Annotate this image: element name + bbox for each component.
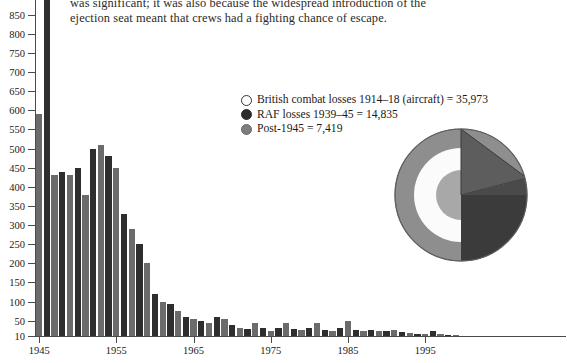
bar-1959 <box>144 263 150 336</box>
bar-1956 <box>121 214 127 336</box>
bar-1969 <box>221 319 227 336</box>
x-axis-tick-label: 1945 <box>29 345 50 356</box>
x-axis-tick <box>271 336 272 343</box>
y-axis-tick-label: 900 <box>0 0 25 1</box>
y-axis-tick-label: 250 <box>0 239 25 250</box>
x-axis-line <box>35 336 566 337</box>
bar-1977 <box>283 323 289 336</box>
y-axis-tick <box>28 336 35 337</box>
bar-1955 <box>113 168 119 336</box>
y-axis-tick <box>28 206 35 207</box>
y-axis-tick-label: 700 <box>0 67 25 78</box>
legend-item-label: British combat losses 1914–18 (aircraft)… <box>257 93 488 108</box>
y-axis-tick-label: 400 <box>0 181 25 192</box>
x-axis-tick-label: 1955 <box>106 345 127 356</box>
y-axis-tick-label: 550 <box>0 124 25 135</box>
bar-1985 <box>345 321 351 336</box>
y-axis-tick <box>28 53 35 54</box>
y-axis-tick-label: 150 <box>0 277 25 288</box>
y-axis-tick <box>28 225 35 226</box>
bar-1973 <box>252 323 258 336</box>
bar-1964 <box>183 317 189 336</box>
y-axis-tick <box>28 168 35 169</box>
bar-1965 <box>190 319 196 336</box>
x-axis-tick-label: 1975 <box>260 345 281 356</box>
bar-1968 <box>214 317 220 336</box>
bar-1970 <box>229 325 235 336</box>
bar-1952 <box>90 149 96 336</box>
gray-circle-icon <box>241 124 252 135</box>
y-axis-tick-label: 600 <box>0 105 25 116</box>
y-axis-tick-label: 200 <box>0 258 25 269</box>
y-axis-tick-label: 10 <box>0 331 25 342</box>
bar-1957 <box>129 229 135 336</box>
wedge-lower-right-quadrant <box>461 195 527 261</box>
bar-1978 <box>291 329 297 336</box>
chart-page: was significant; it was also because the… <box>0 0 567 363</box>
legend-item-0: British combat losses 1914–18 (aircraft)… <box>241 93 488 108</box>
bar-1947 <box>51 175 57 336</box>
y-axis-tick-label: 500 <box>0 143 25 154</box>
bar-1961 <box>160 302 166 336</box>
bar-1972 <box>244 329 250 336</box>
bar-1958 <box>136 244 142 336</box>
x-axis-tick <box>194 336 195 343</box>
bar-1984 <box>337 328 343 336</box>
y-axis-tick-label: 350 <box>0 200 25 211</box>
y-axis-tick <box>28 282 35 283</box>
bar-1946 <box>44 0 50 336</box>
y-axis-tick <box>28 129 35 130</box>
bar-1981 <box>314 323 320 336</box>
y-axis-tick-label: 100 <box>0 296 25 307</box>
bar-1966 <box>198 321 204 336</box>
bar-1960 <box>152 294 158 336</box>
bar-1949 <box>67 175 73 336</box>
legend-item-label: RAF losses 1939–45 = 14,835 <box>257 108 398 123</box>
bar-1980 <box>306 328 312 336</box>
proportional-circle-diagram <box>394 128 528 262</box>
bar-1948 <box>59 172 65 336</box>
y-axis-tick <box>28 302 35 303</box>
y-axis-tick-label: 650 <box>0 86 25 97</box>
y-axis-tick <box>28 110 35 111</box>
bar-1976 <box>275 328 281 336</box>
bar-1967 <box>206 323 212 336</box>
filled-circle-icon <box>241 109 252 120</box>
y-axis-tick <box>28 244 35 245</box>
bar-1962 <box>167 304 173 337</box>
x-axis-tick-label: 1985 <box>337 345 358 356</box>
y-axis-tick <box>28 187 35 188</box>
x-axis-tick <box>39 336 40 343</box>
y-axis-tick-label: 750 <box>0 48 25 59</box>
x-axis-tick <box>116 336 117 343</box>
y-axis-tick-label: 300 <box>0 220 25 231</box>
bar-1974 <box>260 328 266 336</box>
bar-1971 <box>237 328 243 336</box>
y-axis-line <box>35 0 36 337</box>
y-axis-tick-label: 50 <box>0 315 25 326</box>
y-axis-tick-label: 800 <box>0 28 25 39</box>
y-axis-tick <box>28 263 35 264</box>
x-axis-tick <box>425 336 426 343</box>
y-axis-tick <box>28 91 35 92</box>
bar-1951 <box>82 195 88 336</box>
legend-item-label: Post-1945 = 7,419 <box>257 122 342 137</box>
legend-item-1: RAF losses 1939–45 = 14,835 <box>241 108 488 123</box>
open-circle-icon <box>241 95 252 106</box>
y-axis-tick <box>28 149 35 150</box>
circle-diagram-svg <box>394 128 528 262</box>
bar-1945 <box>36 114 42 336</box>
bar-1953 <box>98 145 104 336</box>
bar-1963 <box>175 311 181 336</box>
y-axis-tick <box>28 321 35 322</box>
x-axis-tick-label: 1995 <box>415 345 436 356</box>
y-axis-tick-label: 450 <box>0 162 25 173</box>
y-axis-tick <box>28 15 35 16</box>
x-axis-tick <box>348 336 349 343</box>
bar-1954 <box>105 156 111 336</box>
y-axis-tick <box>28 72 35 73</box>
bar-1950 <box>75 168 81 336</box>
y-axis-tick <box>28 34 35 35</box>
x-axis-tick-label: 1965 <box>183 345 204 356</box>
y-axis-tick-label: 850 <box>0 9 25 20</box>
